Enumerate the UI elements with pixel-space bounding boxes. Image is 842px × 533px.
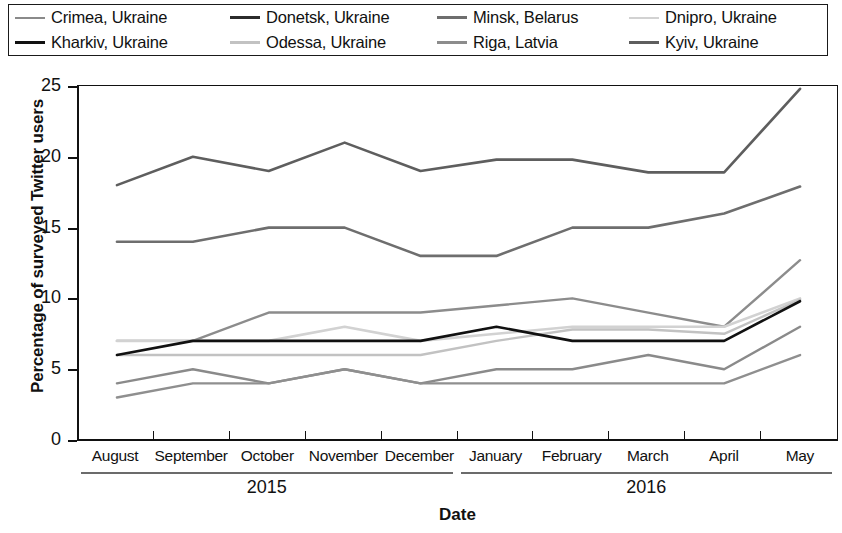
y-tick-mark-15 [68, 228, 77, 230]
x-label-september: September [153, 447, 229, 471]
legend-label-dnipro: Dnipro, Ukraine [665, 8, 777, 27]
year-label-2016: 2016 [461, 477, 833, 498]
legend-label-kharkiv: Kharkiv, Ukraine [51, 33, 168, 52]
x-label-october: October [229, 447, 305, 471]
line-chart: Percentage of surveyed Twitter users 051… [0, 58, 842, 533]
legend-item-crimea: Crimea, Ukraine [15, 8, 230, 27]
legend-item-minsk: Minsk, Belarus [437, 8, 629, 27]
year-rule-2015 [81, 472, 453, 474]
x-label-may: May [762, 447, 838, 471]
legend-swatch-dnipro [629, 17, 659, 19]
series-lines [79, 86, 838, 440]
x-label-december: December [381, 447, 457, 471]
legend-label-donetsk: Donetsk, Ukraine [266, 8, 389, 27]
x-label-january: January [457, 447, 533, 471]
legend-swatch-kharkiv [15, 41, 45, 44]
x-tick-mark-8 [684, 431, 685, 440]
y-tick-label-0: 0 [27, 429, 61, 450]
x-tick-mark-9 [760, 431, 761, 440]
legend-swatch-odessa [230, 41, 260, 44]
y-tick-mark-25 [68, 86, 77, 88]
series-line-riga [117, 260, 800, 341]
y-tick-label-25: 25 [27, 75, 61, 96]
x-label-april: April [686, 447, 762, 471]
legend-label-kyiv: Kyiv, Ukraine [665, 33, 758, 52]
x-label-march: March [610, 447, 686, 471]
x-tick-mark-3 [305, 431, 306, 440]
legend-item-kyiv: Kyiv, Ukraine [629, 33, 829, 52]
legend-item-odessa: Odessa, Ukraine [230, 33, 437, 52]
chart-legend: Crimea, Ukraine Donetsk, Ukraine Minsk, … [8, 4, 828, 56]
x-tick-mark-4 [381, 431, 382, 440]
legend-item-riga: Riga, Latvia [437, 33, 629, 52]
y-axis-ticks: 0510152025 [0, 85, 77, 441]
x-tick-mark-1 [153, 431, 154, 440]
x-tick-mark-2 [229, 431, 230, 440]
legend-grid: Crimea, Ukraine Donetsk, Ukraine Minsk, … [9, 5, 827, 55]
legend-label-minsk: Minsk, Belarus [473, 8, 578, 27]
series-line-kyiv [117, 89, 800, 185]
legend-label-crimea: Crimea, Ukraine [51, 8, 167, 27]
legend-item-donetsk: Donetsk, Ukraine [230, 8, 437, 27]
x-label-august: August [77, 447, 153, 471]
x-tick-mark-6 [532, 431, 533, 440]
y-tick-label-20: 20 [27, 146, 61, 167]
y-tick-mark-20 [68, 157, 77, 159]
x-tick-mark-5 [457, 431, 458, 440]
legend-swatch-donetsk [230, 16, 260, 19]
legend-swatch-riga [437, 41, 467, 44]
x-tick-mark-7 [608, 431, 609, 440]
legend-label-riga: Riga, Latvia [473, 33, 558, 52]
x-label-february: February [534, 447, 610, 471]
legend-swatch-kyiv [629, 41, 659, 44]
y-tick-label-10: 10 [27, 287, 61, 308]
year-group-rules [77, 472, 838, 476]
series-line-minsk [117, 187, 800, 256]
y-tick-mark-0 [68, 440, 77, 442]
plot-area [77, 85, 838, 441]
legend-swatch-minsk [437, 16, 467, 19]
x-axis-title: Date [77, 505, 838, 525]
year-label-2015: 2015 [81, 477, 453, 498]
y-tick-mark-10 [68, 298, 77, 300]
legend-label-odessa: Odessa, Ukraine [266, 33, 386, 52]
legend-item-kharkiv: Kharkiv, Ukraine [15, 33, 230, 52]
year-rule-2016 [461, 472, 833, 474]
legend-item-dnipro: Dnipro, Ukraine [629, 8, 829, 27]
y-tick-label-15: 15 [27, 217, 61, 238]
year-group-labels: 2015 2016 [77, 477, 838, 503]
legend-swatch-crimea [15, 17, 45, 19]
x-axis-labels: August September October November Decemb… [77, 447, 838, 471]
y-tick-label-5: 5 [27, 358, 61, 379]
y-tick-mark-5 [68, 369, 77, 371]
x-label-november: November [305, 447, 381, 471]
